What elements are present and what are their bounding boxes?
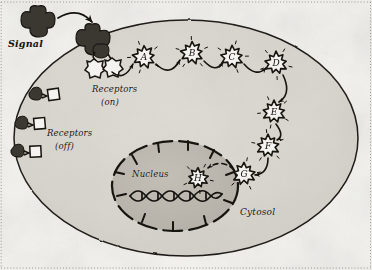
activity-tick — [270, 125, 271, 128]
label-nucleus: Nucleus — [132, 169, 169, 179]
label-receptors-off: Receptors — [47, 128, 92, 138]
cascade-label-e: E — [270, 107, 278, 117]
label-receptors-off-state: (off) — [55, 141, 74, 151]
label-signal: Signal — [8, 38, 43, 49]
cascade-label-b: B — [188, 48, 196, 58]
cascade-label-c: C — [229, 52, 236, 62]
activity-tick — [289, 66, 292, 67]
cascade-label-f: F — [264, 141, 272, 151]
label-cytosol: Cytosol — [240, 207, 275, 217]
nucleus-group — [112, 141, 238, 231]
label-receptors-on: Receptors — [92, 84, 137, 94]
cascade-label-a: A — [140, 52, 148, 62]
activity-tick — [252, 143, 255, 144]
activity-tick — [247, 158, 248, 161]
figure-canvas: ABCDEFGH Signal Receptors (on) Receptors… — [0, 0, 372, 270]
cascade-label-d: D — [271, 58, 279, 68]
cascade-label-g: G — [240, 169, 247, 179]
cascade-label-h: H — [193, 173, 202, 183]
activity-tick — [210, 180, 213, 181]
label-receptors-on-state: (on) — [101, 97, 119, 107]
